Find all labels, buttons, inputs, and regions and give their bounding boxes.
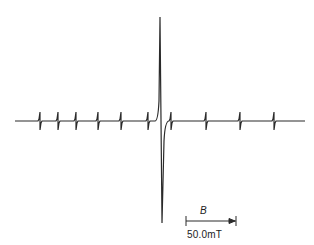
- spectrum-plot: [0, 0, 314, 245]
- arrow-right-icon: [229, 219, 235, 224]
- field-symbol-label: B: [200, 205, 207, 216]
- spectrum-trace: [15, 17, 305, 223]
- scale-bar-label: 50.0mT: [187, 229, 222, 240]
- trace-path: [15, 17, 305, 223]
- scale-bar: [186, 216, 236, 226]
